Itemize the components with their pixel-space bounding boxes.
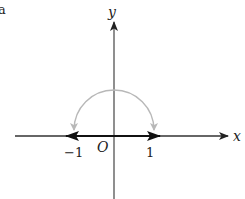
corner-fragment-label: a bbox=[0, 2, 6, 17]
coordinate-diagram: a y x O −1 1 bbox=[0, 0, 245, 199]
tick-label-pos-one: 1 bbox=[146, 145, 154, 160]
x-axis-label: x bbox=[233, 128, 241, 144]
origin-label: O bbox=[97, 139, 109, 155]
tick-label-neg-one: −1 bbox=[64, 145, 83, 160]
y-axis-label: y bbox=[107, 4, 117, 20]
